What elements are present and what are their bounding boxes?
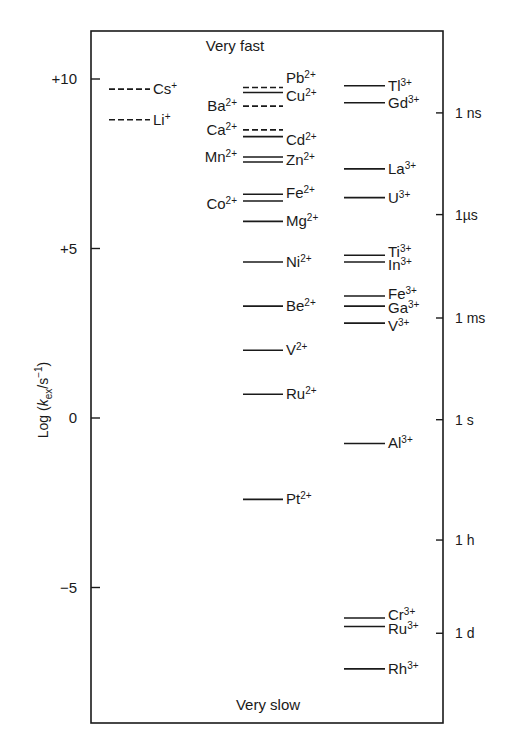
ion-label-zn2plus: Zn2+ [286, 151, 315, 168]
ion-label-ba2plus: Ba2+ [207, 97, 237, 114]
y-axis-label-sub: ex [43, 389, 54, 400]
top-annotation: Very fast [206, 37, 265, 54]
ion-label-ga3plus: Ga3+ [388, 299, 420, 316]
ion-label-fe2plus: Fe2+ [286, 184, 315, 201]
ion-label-co2plus: Co2+ [206, 195, 237, 212]
ion-label-pb2plus: Pb2+ [286, 69, 316, 86]
ion-label-tl3plus: Tl3+ [388, 77, 412, 94]
ion-charge: 2+ [304, 151, 316, 162]
ion-symbol: Pb [286, 69, 304, 86]
ion-symbol: Ru [388, 620, 407, 637]
ion-label-la3plus: La3+ [388, 160, 416, 177]
ion-label-cu2plus: Cu2+ [286, 87, 317, 104]
ion-label-mn2plus: Mn2+ [205, 148, 237, 165]
ion-charge: 2+ [226, 195, 238, 206]
ion-charge: + [165, 111, 171, 122]
ion-label-csplus: Cs+ [153, 80, 177, 97]
ion-charge: 3+ [400, 243, 412, 254]
ion-symbol: Rh [388, 660, 407, 677]
ion-symbol: La [388, 160, 405, 177]
ion-charge: 2+ [226, 148, 238, 159]
ion-symbol: Ni [286, 253, 300, 270]
ion-charge: 3+ [407, 660, 419, 671]
ion-charge: 2+ [305, 131, 317, 142]
ion-symbol: Al [388, 434, 401, 451]
ion-symbol: V [286, 341, 296, 358]
ion-levels: Cs+Li+Pb2+Cu2+Ba2+Ca2+Cd2+Mn2+Zn2+Fe2+Co… [109, 69, 420, 676]
ion-charge: 3+ [399, 189, 411, 200]
ion-label-u3plus: U3+ [388, 189, 410, 206]
ion-symbol: Mn [205, 148, 226, 165]
ion-symbol: Cu [286, 87, 305, 104]
left-tick-label: +5 [60, 240, 77, 257]
y-axis-label-sup: −1 [33, 366, 44, 378]
ion-symbol: Fe [286, 184, 304, 201]
ion-symbol: Co [206, 195, 225, 212]
ion-label-ru3plus: Ru3+ [388, 620, 419, 637]
left-tick-label: +10 [52, 70, 77, 87]
left-axis-ticks: +10+50−5 [52, 70, 100, 596]
ion-charge: 2+ [296, 341, 308, 352]
ion-symbol: Gd [388, 94, 408, 111]
ion-label-al3plus: Al3+ [388, 434, 413, 451]
ion-charge: 3+ [401, 77, 413, 88]
ion-charge: 2+ [304, 69, 316, 80]
right-tick-label: 1 ns [455, 105, 481, 121]
ion-label-v3plus: V3+ [388, 317, 410, 334]
ion-label-be2plus: Be2+ [286, 297, 316, 314]
ion-charge: 2+ [300, 490, 312, 501]
ion-charge: 2+ [305, 87, 317, 98]
ion-charge: 2+ [300, 253, 312, 264]
ion-symbol: Pt [286, 490, 301, 507]
ion-charge: 3+ [398, 317, 410, 328]
ion-charge: 3+ [406, 285, 418, 296]
ion-symbol: U [388, 189, 399, 206]
left-tick-label: −5 [60, 579, 77, 596]
ion-charge: 2+ [226, 121, 238, 132]
ion-symbol: Cd [286, 131, 305, 148]
ion-charge: 3+ [401, 256, 413, 267]
left-tick-label: 0 [69, 409, 77, 426]
right-tick-label: 1 ms [455, 310, 485, 326]
y-axis-label-pre: Log ( [35, 406, 51, 438]
ion-charge: 2+ [307, 212, 319, 223]
y-axis-label-mid: /s [35, 378, 51, 389]
right-tick-label: 1 s [455, 412, 474, 428]
y-axis-label: Log (kex/s−1) [33, 362, 54, 438]
ion-symbol: Zn [286, 151, 304, 168]
ion-charge: 2+ [304, 184, 316, 195]
ion-label-ru2plus: Ru2+ [286, 385, 317, 402]
bottom-annotation: Very slow [236, 696, 300, 713]
ion-label-rh3plus: Rh3+ [388, 660, 419, 677]
ion-label-ca2plus: Ca2+ [206, 121, 237, 138]
ion-charge: 3+ [404, 606, 416, 617]
ion-charge: 2+ [305, 385, 317, 396]
ion-charge: 3+ [408, 299, 420, 310]
ion-label-ni2plus: Ni2+ [286, 253, 312, 270]
ion-label-in3plus: In3+ [388, 256, 412, 273]
ion-label-cd2plus: Cd2+ [286, 131, 317, 148]
exchange-rate-chart: Very fast Very slow Log (kex/s−1) +10+50… [0, 0, 512, 754]
ion-symbol: Li [153, 111, 165, 128]
ion-label-gd3plus: Gd3+ [388, 94, 420, 111]
ion-symbol: Mg [286, 212, 307, 229]
right-tick-label: 1 d [455, 625, 474, 641]
ion-label-v2plus: V2+ [286, 341, 308, 358]
ion-symbol: Tl [388, 77, 401, 94]
ion-label-pt2plus: Pt2+ [286, 490, 312, 507]
y-axis-label-post: ) [35, 362, 51, 367]
ion-symbol: Ru [286, 385, 305, 402]
ion-symbol: Ba [207, 97, 226, 114]
ion-symbol: Ca [206, 121, 226, 138]
ion-symbol: Be [286, 297, 304, 314]
ion-charge: 3+ [401, 434, 413, 445]
ion-symbol: In [388, 256, 401, 273]
ion-charge: 3+ [405, 160, 417, 171]
ion-symbol: Cs [153, 80, 171, 97]
ion-charge: 2+ [226, 97, 238, 108]
ion-charge: 2+ [304, 297, 316, 308]
ion-symbol: V [388, 317, 398, 334]
right-tick-label: 1µs [455, 207, 478, 223]
ion-label-liplus: Li+ [153, 111, 171, 128]
ion-symbol: Ga [388, 299, 409, 316]
